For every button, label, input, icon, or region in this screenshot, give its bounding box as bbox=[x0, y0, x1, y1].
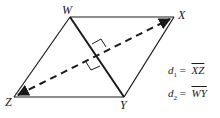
legend-d2: d2 = WY bbox=[168, 87, 207, 102]
diagonal-xz-dashed bbox=[18, 19, 170, 95]
d1-equals: = bbox=[180, 64, 186, 76]
vertex-label-y: Y bbox=[120, 98, 128, 112]
d2-segment: WY bbox=[191, 87, 206, 99]
vertex-label-w: W bbox=[62, 3, 73, 17]
vertex-label-z: Z bbox=[5, 95, 12, 109]
legend-d1: d1 = XZ bbox=[168, 64, 204, 79]
d1-segment: XZ bbox=[191, 64, 204, 76]
d1-subscript: 1 bbox=[174, 71, 178, 79]
right-angle-mark-upper bbox=[92, 39, 106, 47]
right-angle-mark-lower bbox=[86, 62, 100, 70]
diagonal-wy-solid bbox=[70, 17, 124, 97]
side-zw bbox=[14, 17, 70, 97]
d2-equals: = bbox=[180, 87, 186, 99]
vertex-label-x: X bbox=[177, 8, 186, 22]
d2-subscript: 2 bbox=[174, 94, 178, 102]
